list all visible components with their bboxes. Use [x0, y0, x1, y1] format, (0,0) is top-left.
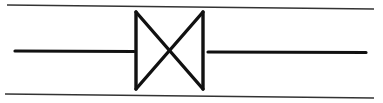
- bottom-rule: [5, 94, 374, 98]
- valve-diagram: [0, 0, 383, 103]
- pipe-right: [208, 52, 366, 53]
- gate-valve-icon: [136, 12, 203, 89]
- pipe-left: [15, 51, 134, 52]
- diagram-svg: [0, 0, 383, 103]
- top-rule: [7, 5, 374, 9]
